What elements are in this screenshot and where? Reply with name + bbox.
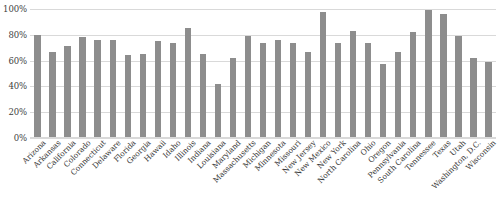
bar	[425, 10, 431, 138]
bar	[350, 31, 356, 138]
bar	[170, 43, 176, 138]
y-axis-tick-label: 20%	[8, 108, 27, 117]
bar	[305, 52, 311, 138]
bar	[470, 58, 476, 138]
bar	[64, 46, 70, 138]
bar	[79, 37, 85, 138]
bar	[94, 40, 100, 138]
bar	[380, 64, 386, 138]
y-axis-tick-label: 80%	[8, 31, 27, 40]
bar	[185, 28, 191, 138]
bar	[410, 32, 416, 138]
bar	[275, 40, 281, 138]
bars-layer	[30, 9, 496, 138]
bar	[140, 54, 146, 138]
bar	[125, 55, 131, 138]
bar	[320, 12, 326, 138]
bar	[230, 58, 236, 138]
bar	[395, 52, 401, 138]
y-axis-tick-label: 0%	[14, 134, 27, 143]
bar	[365, 43, 371, 138]
y-axis: 0%20%40%60%80%100%	[0, 0, 30, 138]
bar	[155, 41, 161, 138]
bar	[215, 84, 221, 138]
bar	[34, 35, 40, 138]
bar	[290, 43, 296, 138]
y-axis-tick-label: 40%	[8, 82, 27, 91]
y-axis-tick-label: 60%	[8, 56, 27, 65]
bar-chart: 0%20%40%60%80%100% ArizonaArkansasCalifo…	[0, 0, 501, 220]
bar	[200, 54, 206, 138]
x-axis: ArizonaArkansasCaliforniaColoradoConnect…	[30, 139, 496, 220]
bar	[485, 62, 491, 138]
bar	[455, 36, 461, 138]
bar	[335, 43, 341, 138]
bar	[110, 40, 116, 138]
bar	[260, 43, 266, 138]
bar	[440, 14, 446, 138]
bar	[245, 36, 251, 138]
bar	[49, 52, 55, 138]
plot-area	[30, 9, 496, 138]
y-axis-tick-label: 100%	[3, 5, 27, 14]
